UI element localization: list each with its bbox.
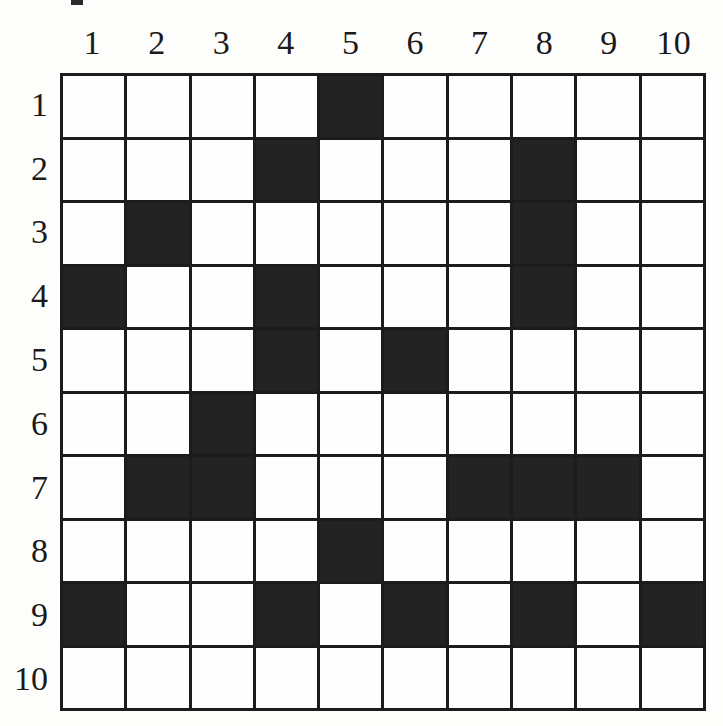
grid-cell-r7-c9[interactable]: [577, 457, 638, 518]
grid-cell-r9-c4[interactable]: [256, 584, 317, 645]
grid-cell-r4-c3[interactable]: [192, 267, 253, 328]
grid-cell-r3-c9[interactable]: [577, 203, 638, 264]
grid-cell-r9-c9[interactable]: [577, 584, 638, 645]
grid-cell-r9-c7[interactable]: [449, 584, 510, 645]
grid-cell-r10-c3[interactable]: [192, 648, 253, 709]
grid-cell-r4-c9[interactable]: [577, 267, 638, 328]
grid-cell-r1-c2[interactable]: [127, 76, 188, 137]
grid-cell-r8-c1[interactable]: [63, 521, 124, 582]
grid-cell-r9-c3[interactable]: [192, 584, 253, 645]
grid-cell-r3-c3[interactable]: [192, 203, 253, 264]
grid-cell-r3-c4[interactable]: [256, 203, 317, 264]
grid-cell-r7-c7[interactable]: [449, 457, 510, 518]
grid-cell-r7-c6[interactable]: [384, 457, 445, 518]
grid-cell-r7-c1[interactable]: [63, 457, 124, 518]
grid-cell-r9-c10[interactable]: [642, 584, 703, 645]
grid-cell-r3-c2[interactable]: [127, 203, 188, 264]
grid-cell-r10-c4[interactable]: [256, 648, 317, 709]
grid-cell-r3-c7[interactable]: [449, 203, 510, 264]
grid-cell-r3-c8[interactable]: [513, 203, 574, 264]
grid-cell-r5-c9[interactable]: [577, 330, 638, 391]
grid-cell-r2-c7[interactable]: [449, 140, 510, 201]
grid-cell-r10-c1[interactable]: [63, 648, 124, 709]
grid-cell-r4-c5[interactable]: [320, 267, 381, 328]
grid-cell-r2-c3[interactable]: [192, 140, 253, 201]
grid-cell-r7-c2[interactable]: [127, 457, 188, 518]
grid-cell-r4-c7[interactable]: [449, 267, 510, 328]
grid-cell-r1-c7[interactable]: [449, 76, 510, 137]
grid-cell-r1-c5[interactable]: [320, 76, 381, 137]
grid-cell-r6-c10[interactable]: [642, 394, 703, 455]
grid-cell-r1-c6[interactable]: [384, 76, 445, 137]
grid-cell-r5-c7[interactable]: [449, 330, 510, 391]
grid-cell-r8-c3[interactable]: [192, 521, 253, 582]
grid-cell-r3-c1[interactable]: [63, 203, 124, 264]
puzzle-grid[interactable]: [60, 73, 706, 711]
grid-cell-r2-c10[interactable]: [642, 140, 703, 201]
grid-cell-r6-c8[interactable]: [513, 394, 574, 455]
grid-cell-r1-c4[interactable]: [256, 76, 317, 137]
grid-cell-r7-c3[interactable]: [192, 457, 253, 518]
grid-cell-r1-c3[interactable]: [192, 76, 253, 137]
grid-cell-r2-c9[interactable]: [577, 140, 638, 201]
grid-cell-r4-c2[interactable]: [127, 267, 188, 328]
grid-cell-r8-c10[interactable]: [642, 521, 703, 582]
grid-cell-r10-c2[interactable]: [127, 648, 188, 709]
grid-cell-r7-c10[interactable]: [642, 457, 703, 518]
grid-cell-r9-c1[interactable]: [63, 584, 124, 645]
grid-cell-r5-c3[interactable]: [192, 330, 253, 391]
grid-cell-r10-c6[interactable]: [384, 648, 445, 709]
grid-cell-r6-c5[interactable]: [320, 394, 381, 455]
grid-cell-r5-c2[interactable]: [127, 330, 188, 391]
grid-cell-r2-c8[interactable]: [513, 140, 574, 201]
grid-cell-r10-c10[interactable]: [642, 648, 703, 709]
grid-cell-r7-c4[interactable]: [256, 457, 317, 518]
grid-cell-r6-c9[interactable]: [577, 394, 638, 455]
grid-cell-r2-c4[interactable]: [256, 140, 317, 201]
grid-cell-r5-c1[interactable]: [63, 330, 124, 391]
grid-cell-r1-c9[interactable]: [577, 76, 638, 137]
grid-cell-r2-c1[interactable]: [63, 140, 124, 201]
grid-cell-r5-c6[interactable]: [384, 330, 445, 391]
grid-cell-r5-c4[interactable]: [256, 330, 317, 391]
grid-cell-r5-c10[interactable]: [642, 330, 703, 391]
grid-cell-r7-c5[interactable]: [320, 457, 381, 518]
grid-cell-r4-c4[interactable]: [256, 267, 317, 328]
grid-cell-r5-c8[interactable]: [513, 330, 574, 391]
grid-cell-r2-c5[interactable]: [320, 140, 381, 201]
grid-cell-r6-c3[interactable]: [192, 394, 253, 455]
grid-cell-r4-c10[interactable]: [642, 267, 703, 328]
grid-cell-r7-c8[interactable]: [513, 457, 574, 518]
grid-cell-r9-c6[interactable]: [384, 584, 445, 645]
grid-cell-r5-c5[interactable]: [320, 330, 381, 391]
grid-cell-r3-c5[interactable]: [320, 203, 381, 264]
grid-cell-r2-c2[interactable]: [127, 140, 188, 201]
grid-cell-r2-c6[interactable]: [384, 140, 445, 201]
grid-cell-r10-c9[interactable]: [577, 648, 638, 709]
grid-cell-r10-c5[interactable]: [320, 648, 381, 709]
grid-cell-r8-c6[interactable]: [384, 521, 445, 582]
grid-cell-r9-c2[interactable]: [127, 584, 188, 645]
grid-cell-r8-c7[interactable]: [449, 521, 510, 582]
grid-cell-r9-c8[interactable]: [513, 584, 574, 645]
grid-cell-r4-c1[interactable]: [63, 267, 124, 328]
grid-cell-r1-c1[interactable]: [63, 76, 124, 137]
grid-cell-r10-c8[interactable]: [513, 648, 574, 709]
grid-cell-r10-c7[interactable]: [449, 648, 510, 709]
grid-cell-r6-c2[interactable]: [127, 394, 188, 455]
grid-cell-r3-c6[interactable]: [384, 203, 445, 264]
grid-cell-r8-c4[interactable]: [256, 521, 317, 582]
grid-cell-r6-c6[interactable]: [384, 394, 445, 455]
grid-cell-r8-c5[interactable]: [320, 521, 381, 582]
grid-cell-r6-c7[interactable]: [449, 394, 510, 455]
grid-cell-r6-c4[interactable]: [256, 394, 317, 455]
grid-cell-r1-c8[interactable]: [513, 76, 574, 137]
grid-cell-r8-c2[interactable]: [127, 521, 188, 582]
grid-cell-r6-c1[interactable]: [63, 394, 124, 455]
grid-cell-r8-c8[interactable]: [513, 521, 574, 582]
grid-cell-r9-c5[interactable]: [320, 584, 381, 645]
grid-cell-r4-c8[interactable]: [513, 267, 574, 328]
grid-cell-r3-c10[interactable]: [642, 203, 703, 264]
grid-cell-r4-c6[interactable]: [384, 267, 445, 328]
grid-cell-r8-c9[interactable]: [577, 521, 638, 582]
